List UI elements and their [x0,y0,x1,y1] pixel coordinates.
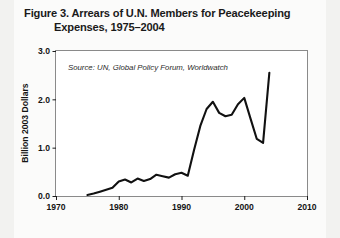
x-tick-label: 2000 [235,202,254,212]
figure-container: Figure 3. Arrears of U.N. Members for Pe… [0,0,340,238]
y-tick-label: 1.0 [38,143,50,153]
x-tick-label: 1990 [172,202,191,212]
x-tick-label: 1980 [109,202,128,212]
y-axis-title: Billion 2003 Dollars [20,83,30,163]
y-tick-label: 3.0 [38,46,50,56]
y-tick-label: 2.0 [38,95,50,105]
y-axis-tick-labels: 0.01.02.03.0 [38,46,50,201]
x-axis-tick-labels: 19701980199020002010 [46,202,316,212]
y-tick-label: 0.0 [38,191,50,201]
chart-plot: 0.01.02.03.0 19701980199020002010 Billio… [0,0,340,238]
x-tick-label: 1970 [46,202,65,212]
x-tick-label: 2010 [297,202,316,212]
source-annotation: Source: UN, Global Policy Forum, Worldwa… [68,63,228,72]
